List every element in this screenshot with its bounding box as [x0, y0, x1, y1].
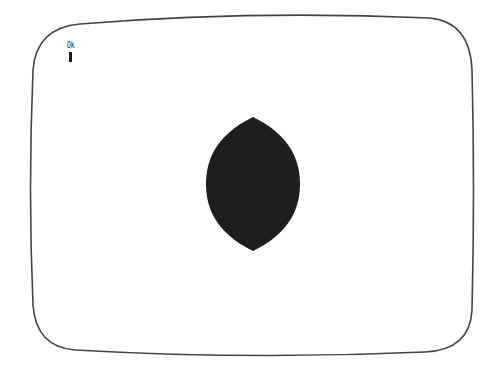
lens-shape [0, 0, 499, 375]
block-cursor [69, 52, 72, 62]
prompt-text: Ok [67, 42, 75, 50]
